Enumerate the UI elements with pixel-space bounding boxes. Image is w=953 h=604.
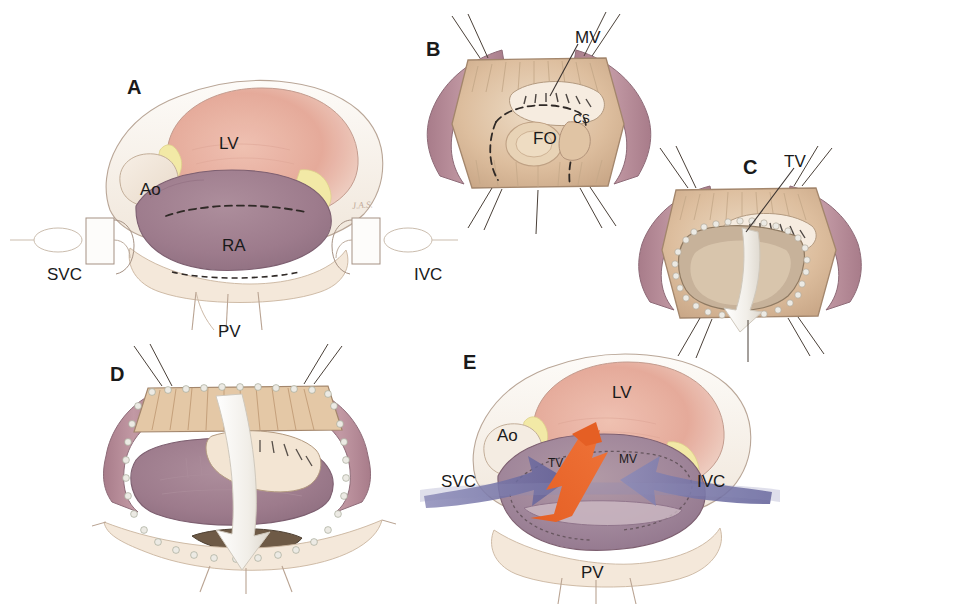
label-svc-a: SVC: [47, 265, 82, 285]
panel-letter-a: A: [127, 76, 142, 99]
panel-letter-d: D: [110, 363, 125, 386]
panel-letter-e: E: [463, 351, 477, 374]
surgical-illustration-figure: J.A.S. LV Ao RA SVC IVC PV: [0, 0, 953, 604]
pv-stub-1-d: [200, 566, 210, 592]
label-ao-e: Ao: [497, 426, 518, 446]
label-ivc-e: IVC: [697, 472, 725, 492]
label-svc-e: SVC: [441, 472, 476, 492]
panel-a: J.A.S. LV Ao RA SVC IVC PV: [0, 0, 470, 345]
wall-edge-left-d: [92, 522, 106, 526]
label-lv-a: LV: [219, 134, 239, 154]
label-fo-b: FO: [533, 129, 557, 149]
coronary-sinus-b: [559, 122, 590, 161]
label-lv-e: LV: [612, 383, 632, 403]
label-mv-e: MV: [619, 452, 637, 466]
panel-a-artwork: [0, 0, 470, 345]
artist-signature-a: J.A.S.: [352, 199, 373, 210]
wall-edge-right-d: [382, 520, 396, 524]
label-tv-e: TV: [548, 456, 563, 470]
label-mv-b: MV: [575, 28, 601, 48]
label-pv-a: PV: [218, 322, 241, 342]
label-tv-c: TV: [784, 152, 806, 172]
stay-sutures-d: [134, 344, 342, 386]
label-cs-b: CS: [573, 112, 590, 126]
panel-d: [90, 340, 400, 595]
panel-d-artwork: [90, 340, 400, 595]
pv-stub-3-d: [282, 566, 292, 592]
label-ao-a: Ao: [140, 180, 161, 200]
label-pv-e: PV: [581, 563, 604, 583]
label-ivc-a: IVC: [414, 265, 442, 285]
panel-letter-b: B: [426, 38, 441, 61]
label-ra-a: RA: [222, 236, 246, 256]
panel-letter-c: C: [743, 156, 758, 179]
